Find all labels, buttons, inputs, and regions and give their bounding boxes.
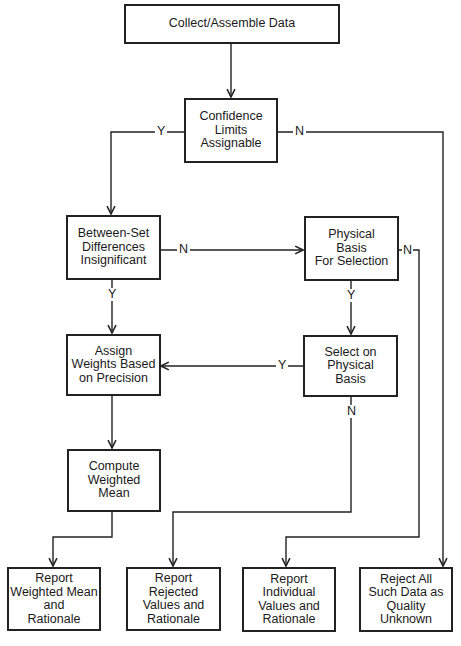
edge-label-select-yes: Y [276, 359, 288, 372]
edge-label-select-no: N [345, 405, 358, 418]
node-assign-weights: Assign Weights Based on Precision [66, 334, 161, 396]
node-text: Weighted Mean [10, 586, 97, 600]
node-physical-basis-for-selection: Physical Basis For Selection [304, 216, 399, 281]
node-text: Between-Set [78, 227, 150, 241]
node-text: Values and [258, 600, 320, 614]
edge-select-rejected [173, 396, 351, 566]
node-text: Basis [335, 373, 366, 387]
node-text: Unknown [380, 613, 432, 627]
edge-label-confidence-yes: Y [155, 125, 167, 138]
node-collect-assemble-data: Collect/Assemble Data [124, 4, 340, 44]
node-text: Basis [336, 242, 367, 256]
node-text: Report [155, 572, 193, 586]
node-confidence-limits-assignable: Confidence Limits Assignable [184, 98, 278, 163]
node-text: Physical [328, 228, 375, 242]
node-text: Differences [82, 241, 145, 255]
node-text: Reject All [380, 573, 432, 587]
connector-layer [0, 0, 461, 646]
node-text: Assign [95, 345, 133, 359]
node-reject-all-data: Reject All Such Data as Quality Unknown [359, 567, 453, 632]
node-text: Compute [89, 460, 140, 474]
node-text: Report [35, 572, 73, 586]
node-text: Physical [327, 359, 374, 373]
edge-label-physical-no: N [402, 244, 413, 257]
node-text: For Selection [315, 255, 389, 269]
edge-label-between-yes: Y [106, 288, 118, 301]
edge-confidence-between [111, 132, 184, 214]
node-report-weighted-mean: Report Weighted Mean and Rationale [7, 567, 101, 631]
node-text: Select on [324, 346, 376, 360]
node-text: Rationale [28, 613, 81, 627]
node-text: Such Data as [368, 586, 443, 600]
node-text: Mean [98, 487, 129, 501]
edge-label-physical-yes: Y [345, 289, 357, 302]
node-report-rejected-values: Report Rejected Values and Rationale [126, 567, 221, 631]
node-text: Weighted [88, 474, 141, 488]
node-compute-weighted-mean: Compute Weighted Mean [67, 449, 161, 512]
node-text: Report [270, 573, 308, 587]
node-text: Individual [263, 586, 316, 600]
node-text: Rationale [263, 613, 316, 627]
node-text: on Precision [79, 372, 148, 386]
node-text: Values and [143, 599, 205, 613]
node-report-individual-values: Report Individual Values and Rationale [242, 567, 336, 632]
node-text: Limits [215, 124, 248, 138]
node-between-set-differences: Between-Set Differences Insignificant [66, 215, 161, 280]
node-text: Rejected [149, 586, 198, 600]
node-text: Rationale [147, 613, 200, 627]
flowchart: Collect/Assemble Data Confidence Limits … [0, 0, 461, 646]
edge-label-between-no: N [177, 243, 190, 256]
node-text: Assignable [200, 137, 261, 151]
node-text: Insignificant [80, 254, 146, 268]
edge-label-confidence-no: N [293, 125, 306, 138]
node-text: and [44, 599, 65, 613]
node-text: Collect/Assemble Data [169, 17, 295, 31]
node-text: Quality [387, 600, 426, 614]
node-text: Confidence [199, 110, 262, 124]
node-text: Weights Based [72, 358, 156, 372]
edge-compute-mean [53, 511, 112, 566]
node-select-on-physical-basis: Select on Physical Basis [303, 335, 398, 397]
